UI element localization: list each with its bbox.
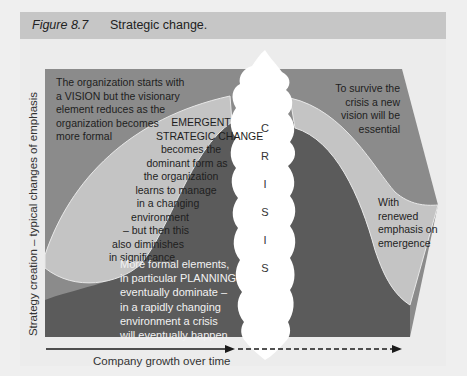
annotation-new-vision: To survive the crisis a new vision will … bbox=[330, 82, 400, 136]
crisis-letter-s: S bbox=[259, 206, 271, 218]
x-axis-label: Company growth over time bbox=[93, 355, 230, 367]
y-axis-label: Strategy creation – typical changes of e… bbox=[27, 92, 39, 336]
x-axis-arrow-end bbox=[392, 345, 402, 353]
crisis-letter-i: I bbox=[259, 178, 271, 190]
crisis-letter-s2: S bbox=[259, 262, 271, 274]
annotation-emergent: EMERGENT STRATEGIC CHANGE becomes the do… bbox=[96, 116, 246, 265]
annotation-planning: More formal elements, in particular PLAN… bbox=[120, 257, 236, 342]
crisis-letter-i2: I bbox=[259, 234, 271, 246]
x-axis-arrow-mid bbox=[225, 345, 235, 353]
crisis-letter-r: R bbox=[259, 150, 271, 162]
annotation-renewed-emergence: With renewed emphasis on emergence bbox=[378, 196, 438, 250]
crisis-letter-c: C bbox=[259, 122, 271, 134]
